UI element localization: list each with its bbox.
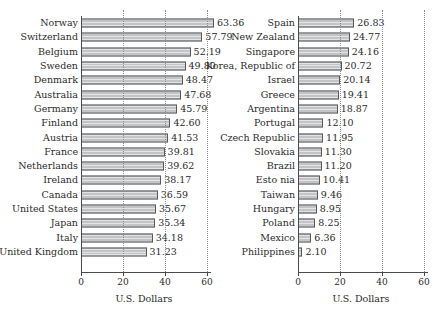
bar[interactable]: [81, 76, 183, 85]
bar-row[interactable]: Austria41.53: [0, 130, 218, 144]
bar[interactable]: [81, 90, 181, 99]
bar[interactable]: [298, 47, 349, 56]
bar-value-label: 39.62: [167, 161, 194, 171]
chart-figure: Norway63.36Switzerland57.79Belgium52.19S…: [0, 0, 435, 320]
bar[interactable]: [298, 76, 340, 85]
x-tick-label: 0: [295, 277, 301, 287]
category-label: Esto nia: [256, 176, 295, 186]
category-label: United States: [12, 204, 78, 214]
bar[interactable]: [81, 219, 155, 228]
bar-row[interactable]: Esto nia10.41: [217, 173, 435, 187]
category-label: Slovakia: [254, 147, 295, 157]
bar[interactable]: [81, 176, 161, 185]
bar-row[interactable]: Japan35.34: [0, 216, 218, 230]
bar-row[interactable]: Spain26.83: [217, 16, 435, 30]
bar[interactable]: [298, 119, 323, 128]
gridline: [424, 10, 425, 272]
bar[interactable]: [81, 47, 191, 56]
category-label: Brazil: [267, 161, 295, 171]
bar-row[interactable]: Norway63.36: [0, 16, 218, 30]
bar-row[interactable]: United States35.67: [0, 202, 218, 216]
bar-value-label: 11.20: [325, 161, 352, 171]
bar-row[interactable]: Finland42.60: [0, 116, 218, 130]
category-label: Austria: [43, 133, 78, 143]
bar-row[interactable]: Taiwan9.46: [217, 188, 435, 202]
bar[interactable]: [81, 33, 202, 42]
category-label: Taiwan: [261, 190, 295, 200]
bar-row[interactable]: Singapore24.16: [217, 45, 435, 59]
bar-row[interactable]: Sweden49.80: [0, 59, 218, 73]
bar-row[interactable]: Belgium52.19: [0, 45, 218, 59]
x-tick-label: 60: [418, 277, 429, 287]
bar-value-label: 8.25: [318, 219, 339, 229]
bar-row[interactable]: Greece19.41: [217, 88, 435, 102]
bar-row[interactable]: Slovakia11.30: [217, 145, 435, 159]
bar-row[interactable]: Netherlands39.62: [0, 159, 218, 173]
bar-value-label: 45.79: [180, 104, 207, 114]
category-label: Sweden: [40, 61, 78, 71]
bar[interactable]: [298, 176, 320, 185]
category-label: United Kingdom: [0, 247, 78, 257]
bar[interactable]: [298, 19, 354, 28]
x-axis-title-right: U.S. Dollars: [298, 293, 424, 304]
bar-value-label: 20.14: [343, 76, 370, 86]
bar-row[interactable]: Poland8.25: [217, 216, 435, 230]
bar[interactable]: [298, 205, 317, 214]
bar-row[interactable]: Canada36.59: [0, 188, 218, 202]
gridline: [207, 10, 208, 272]
bar-value-label: 38.17: [164, 176, 191, 186]
bar[interactable]: [298, 104, 338, 113]
bar-row[interactable]: Italy34.18: [0, 231, 218, 245]
bar[interactable]: [81, 104, 177, 113]
x-tick-label: 40: [376, 277, 387, 287]
bar-value-label: 42.60: [173, 118, 200, 128]
bar-row[interactable]: Portugal12.10: [217, 116, 435, 130]
bar[interactable]: [298, 147, 322, 156]
bar-row[interactable]: Hungary8.95: [217, 202, 435, 216]
x-tick: [81, 272, 82, 276]
bar[interactable]: [298, 162, 322, 171]
category-label: France: [44, 147, 78, 157]
bar-row[interactable]: Czech Republic11.95: [217, 130, 435, 144]
bar-row[interactable]: United Kingdom31.23: [0, 245, 218, 259]
bar[interactable]: [298, 33, 350, 42]
bar-row[interactable]: Denmark48.47: [0, 73, 218, 87]
bar-row[interactable]: Brazil11.20: [217, 159, 435, 173]
bar[interactable]: [298, 90, 339, 99]
bar-row[interactable]: Germany45.79: [0, 102, 218, 116]
bar[interactable]: [81, 190, 158, 199]
bar[interactable]: [81, 19, 214, 28]
bar[interactable]: [298, 219, 315, 228]
category-label: Korea, Republic of: [206, 61, 295, 71]
bar[interactable]: [81, 205, 156, 214]
x-tick: [424, 272, 425, 276]
category-label: Canada: [42, 190, 78, 200]
bar-value-label: 11.30: [325, 147, 352, 157]
bar-row[interactable]: Philippines2.10: [217, 245, 435, 259]
x-tick-label: 40: [159, 277, 170, 287]
bar[interactable]: [81, 247, 147, 256]
bar-row[interactable]: Ireland38.17: [0, 173, 218, 187]
bar-row[interactable]: New Zealand24.77: [217, 30, 435, 44]
bar[interactable]: [81, 119, 170, 128]
bar-row[interactable]: Switzerland57.79: [0, 30, 218, 44]
bar-row[interactable]: Australia47.68: [0, 88, 218, 102]
bar-row[interactable]: Argentina18.87: [217, 102, 435, 116]
bar[interactable]: [298, 233, 311, 242]
bar[interactable]: [81, 62, 186, 71]
bar-value-label: 19.41: [342, 90, 369, 100]
bar[interactable]: [81, 233, 153, 242]
bar[interactable]: [298, 133, 323, 142]
bar-value-label: 35.34: [158, 219, 185, 229]
bar[interactable]: [298, 62, 342, 71]
bar[interactable]: [81, 133, 168, 142]
bar-row[interactable]: Israel20.14: [217, 73, 435, 87]
category-label: Germany: [34, 104, 78, 114]
bar-row[interactable]: Korea, Republic of20.72: [217, 59, 435, 73]
category-label: Belgium: [38, 47, 78, 57]
category-label: Czech Republic: [220, 133, 295, 143]
bar-value-label: 35.67: [159, 204, 186, 214]
bar[interactable]: [298, 190, 318, 199]
bar-row[interactable]: Mexico6.36: [217, 231, 435, 245]
bar-row[interactable]: France39.81: [0, 145, 218, 159]
